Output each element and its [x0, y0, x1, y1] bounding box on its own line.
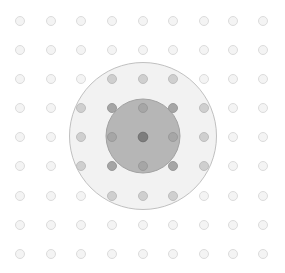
lattice-dot [229, 17, 238, 26]
lattice-dot [169, 46, 178, 55]
lattice-dot [229, 104, 238, 113]
lattice-dot [16, 17, 25, 26]
lattice-dot [259, 250, 268, 259]
lattice-dot [259, 17, 268, 26]
lattice-dot [139, 162, 148, 171]
lattice-dot [139, 221, 148, 230]
lattice-dot [259, 162, 268, 171]
lattice-dot [47, 17, 56, 26]
lattice-dot [169, 75, 178, 84]
lattice-dot [47, 162, 56, 171]
lattice-dot [200, 162, 209, 171]
lattice-dot [259, 133, 268, 142]
lattice-dot [77, 221, 86, 230]
lattice-dot [47, 46, 56, 55]
lattice-dot [229, 162, 238, 171]
lattice-dot [77, 192, 86, 201]
lattice-dot [229, 46, 238, 55]
lattice-dot [16, 46, 25, 55]
lattice-dot [259, 192, 268, 201]
lattice-dot [108, 250, 117, 259]
lattice-dot [200, 192, 209, 201]
lattice-dot [169, 17, 178, 26]
lattice-dot [259, 46, 268, 55]
lattice-dot [200, 17, 209, 26]
lattice-dot [259, 75, 268, 84]
lattice-dot [229, 221, 238, 230]
lattice-dot [169, 104, 178, 113]
lattice-dot [139, 75, 148, 84]
lattice-dot [108, 133, 117, 142]
lattice-dot [169, 162, 178, 171]
lattice-dot [47, 221, 56, 230]
lattice-dot [138, 132, 148, 142]
lattice-dot [77, 250, 86, 259]
lattice-dot [47, 192, 56, 201]
lattice-dot [169, 221, 178, 230]
lattice-dot [16, 192, 25, 201]
lattice-dot [108, 221, 117, 230]
diagram-canvas [0, 0, 285, 273]
lattice-dot [259, 104, 268, 113]
lattice-dot [200, 133, 209, 142]
lattice-dot [139, 192, 148, 201]
lattice-dot [108, 104, 117, 113]
lattice-dot [200, 104, 209, 113]
lattice-dot [229, 250, 238, 259]
lattice-dot [139, 17, 148, 26]
lattice-dot [77, 75, 86, 84]
lattice-dot [16, 221, 25, 230]
lattice-dot [259, 221, 268, 230]
lattice-dot [169, 250, 178, 259]
lattice-dot [77, 17, 86, 26]
lattice-dot [16, 104, 25, 113]
lattice-dot [16, 75, 25, 84]
lattice-dot [47, 104, 56, 113]
lattice-dot [139, 104, 148, 113]
lattice-dot [16, 162, 25, 171]
lattice-dot [108, 46, 117, 55]
lattice-dots-layer [16, 17, 268, 259]
lattice-dot [77, 162, 86, 171]
lattice-dot [200, 75, 209, 84]
lattice-dot [139, 250, 148, 259]
lattice-dot [169, 192, 178, 201]
lattice-dot [229, 192, 238, 201]
lattice-dot [77, 104, 86, 113]
lattice-dot [108, 192, 117, 201]
lattice-dot [169, 133, 178, 142]
lattice-dot [16, 133, 25, 142]
lattice-dot [139, 46, 148, 55]
lattice-dot [200, 46, 209, 55]
lattice-dot [200, 221, 209, 230]
lattice-dot [229, 75, 238, 84]
lattice-dot [47, 133, 56, 142]
lattice-dot [77, 46, 86, 55]
lattice-dot [108, 162, 117, 171]
lattice-dot [16, 250, 25, 259]
lattice-dot [229, 133, 238, 142]
lattice-dot [77, 133, 86, 142]
lattice-dot [47, 75, 56, 84]
lattice-dot [47, 250, 56, 259]
lattice-dot [108, 75, 117, 84]
dot-grid-scene [0, 0, 285, 273]
lattice-dot [200, 250, 209, 259]
lattice-dot [108, 17, 117, 26]
